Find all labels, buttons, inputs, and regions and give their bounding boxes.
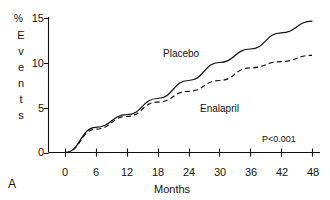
kaplan-meier-event-chart: % E v e n t s 15 10 5 0 0 6 12 18 24 30 … bbox=[0, 0, 330, 200]
axes-group bbox=[44, 17, 320, 157]
series-line-placebo bbox=[65, 21, 312, 152]
y-tick-marks bbox=[44, 19, 49, 154]
series-line-enalapril bbox=[65, 55, 312, 152]
plot-area bbox=[0, 0, 330, 200]
